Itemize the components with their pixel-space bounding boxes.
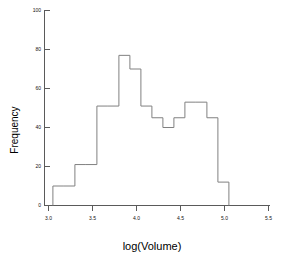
y-tick-label-100: 100: [33, 7, 42, 13]
chart-svg: Frequency 100 80 60 40 20 0: [0, 0, 282, 276]
y-tick-label-60: 60: [35, 85, 41, 91]
y-tick-label-20: 20: [35, 163, 41, 169]
x-tick-label-3-0: 3.0: [45, 215, 52, 221]
y-tick-marks: [45, 11, 51, 206]
y-tick-label-0: 0: [38, 202, 41, 208]
x-tick-label-5-0: 5.0: [221, 215, 228, 221]
x-tick-label-4-0: 4.0: [133, 215, 140, 221]
x-tick-label-3-5: 3.5: [89, 215, 96, 221]
y-tick-label-80: 80: [35, 46, 41, 52]
x-tick-label-5-5: 5.5: [265, 215, 272, 221]
histogram-chart: Frequency 100 80 60 40 20 0: [0, 0, 282, 276]
y-tick-label-40: 40: [35, 124, 41, 130]
histogram-outline: [53, 55, 229, 205]
x-axis-label: log(Volume): [123, 240, 182, 252]
x-tick-label-4-5: 4.5: [177, 215, 184, 221]
y-axis-label: Frequency: [9, 106, 20, 153]
x-tick-marks: [49, 206, 269, 212]
